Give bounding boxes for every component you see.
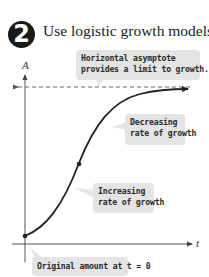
x-axis-label: t [196, 237, 199, 249]
inflection-point [77, 162, 82, 167]
decreasing-callout-line2: rate of growth [130, 128, 180, 139]
original-amount-callout: Original amount at t = 0 [32, 257, 128, 276]
initial-point [23, 234, 28, 239]
decreasing-callout-line1: Decreasing [130, 117, 180, 128]
asymptote-callout: Horizontal asymptote provides a limit to… [76, 50, 200, 80]
asymptote-left-arrow-icon [13, 85, 19, 90]
asymptote-callout-line2: provides a limit to growth. [81, 64, 195, 75]
asymptote-callout-line1: Horizontal asymptote [81, 53, 195, 64]
increasing-callout-line2: rate of growth [98, 197, 149, 208]
original-callout-text: Original amount at t = 0 [37, 261, 123, 272]
increasing-callout-line1: Increasing [98, 186, 149, 197]
decreasing-rate-callout: Decreasing rate of growth [125, 114, 185, 145]
y-axis-label: A [22, 59, 29, 71]
increasing-rate-callout: Increasing rate of growth [93, 183, 154, 213]
asymptote-callout-tail [96, 79, 104, 87]
increasing-callout-tail [74, 188, 95, 198]
logistic-curve [25, 89, 188, 236]
